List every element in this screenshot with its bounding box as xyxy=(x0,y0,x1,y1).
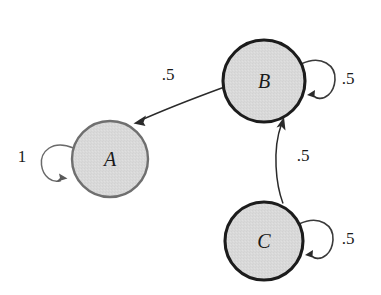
edge-c-to-b-path xyxy=(276,124,283,204)
state-node-b[interactable]: B xyxy=(223,40,305,122)
edge-a-self-loop-arrowhead xyxy=(56,174,68,183)
state-diagram-svg: .5 .5 1 .5 .5 A xyxy=(0,0,381,295)
edge-a-self-loop: 1 xyxy=(18,145,74,182)
edge-label-b-to-a: .5 xyxy=(162,65,175,84)
state-diagram-canvas: .5 .5 1 .5 .5 A xyxy=(0,0,381,295)
edge-b-to-a-path xyxy=(139,87,225,121)
edge-c-to-b: .5 xyxy=(276,117,309,204)
edge-label-b-self-loop: .5 xyxy=(342,69,355,88)
edge-label-a-self-loop: 1 xyxy=(18,147,27,166)
edge-b-to-a: .5 xyxy=(134,65,225,126)
edge-b-self-loop: .5 xyxy=(301,60,354,99)
state-node-a-label: A xyxy=(102,148,117,170)
edge-a-self-loop-path xyxy=(41,145,73,181)
edge-c-self-loop: .5 xyxy=(299,220,354,259)
state-node-a[interactable]: A xyxy=(72,121,148,197)
edge-b-to-a-arrowhead xyxy=(134,116,147,127)
state-node-b-label: B xyxy=(258,70,270,92)
state-node-c-label: C xyxy=(257,230,271,252)
edge-label-c-to-b: .5 xyxy=(297,146,310,165)
edge-label-c-self-loop: .5 xyxy=(342,229,355,248)
state-node-c[interactable]: C xyxy=(225,202,303,280)
